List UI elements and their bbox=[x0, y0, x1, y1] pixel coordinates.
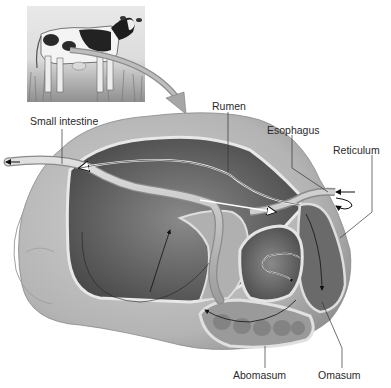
label-omasum: Omasum bbox=[318, 369, 361, 381]
label-rumen: Rumen bbox=[212, 100, 246, 112]
label-esophagus: Esophagus bbox=[267, 124, 320, 136]
stomach-illustration bbox=[0, 0, 391, 388]
diagram: Small intestine Rumen Esophagus Reticulu… bbox=[0, 0, 391, 388]
pointer-arrow bbox=[70, 50, 186, 114]
label-abomasum: Abomasum bbox=[233, 369, 286, 381]
omasum-chamber bbox=[240, 226, 303, 301]
label-small-intestine: Small intestine bbox=[30, 115, 98, 127]
label-reticulum: Reticulum bbox=[333, 144, 380, 156]
